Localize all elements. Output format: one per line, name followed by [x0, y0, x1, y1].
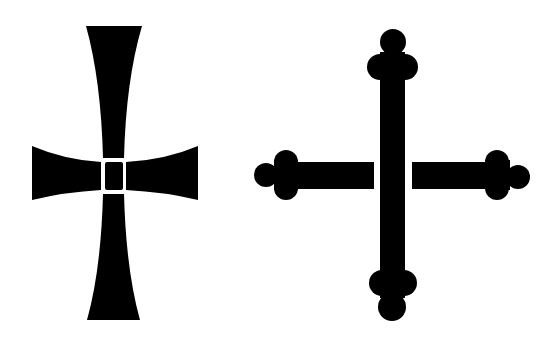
illustration-canvas [0, 0, 559, 341]
